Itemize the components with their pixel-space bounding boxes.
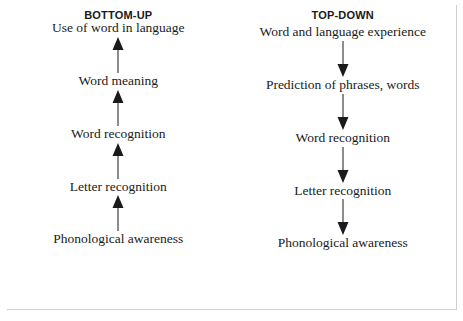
arrow-down-top-down-2 — [336, 93, 350, 131]
arrow-down-top-down-1 — [336, 40, 350, 78]
stage-label-bottom-up-3: Word recognition — [71, 127, 166, 142]
columns-container: BOTTOM-UP Use of word in language Word m… — [6, 4, 455, 308]
stage-label-bottom-up-1: Use of word in language — [52, 21, 185, 36]
arrow-up-bottom-up-2 — [111, 89, 125, 127]
arrow-down-top-down-4 — [336, 198, 350, 236]
column-top-down: TOP-DOWN Word and language experience Pr… — [231, 4, 456, 308]
figure-frame: BOTTOM-UP Use of word in language Word m… — [6, 4, 455, 308]
arrow-up-bottom-up-3 — [111, 142, 125, 180]
stage-label-top-down-5: Phonological awareness — [278, 236, 408, 251]
stage-label-bottom-up-4: Letter recognition — [70, 180, 167, 195]
stage-label-top-down-2: Prediction of phrases, words — [266, 78, 420, 93]
stage-label-top-down-1: Word and language experience — [260, 25, 426, 40]
arrow-up-bottom-up-4 — [111, 194, 125, 232]
stage-label-top-down-4: Letter recognition — [294, 184, 391, 199]
stage-label-bottom-up-5: Phonological awareness — [53, 232, 183, 247]
stage-label-bottom-up-2: Word meaning — [78, 74, 158, 89]
column-heading-top-down: TOP-DOWN — [311, 9, 374, 21]
stage-label-top-down-3: Word recognition — [295, 131, 390, 146]
column-bottom-up: BOTTOM-UP Use of word in language Word m… — [6, 4, 231, 308]
arrow-down-top-down-3 — [336, 146, 350, 184]
arrow-up-bottom-up-1 — [111, 36, 125, 74]
